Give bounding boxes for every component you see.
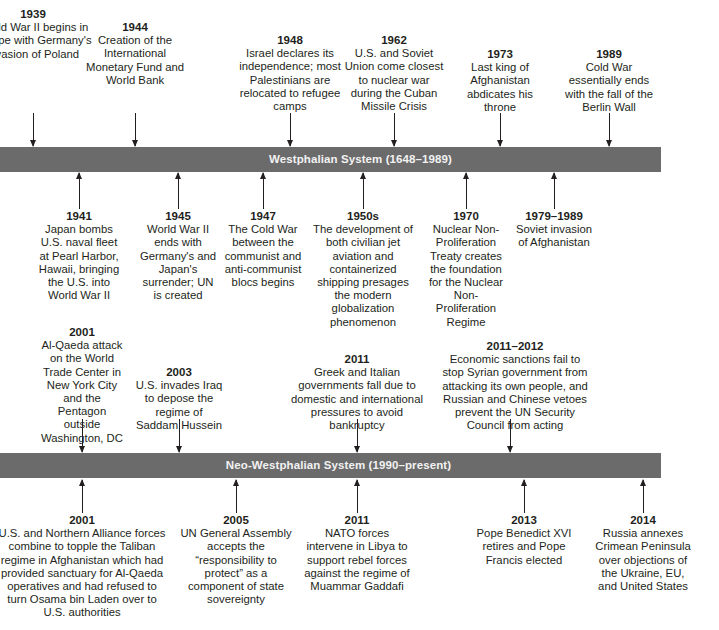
event-1950s: 1950s The development of both civilian j… bbox=[313, 210, 413, 329]
event-text: Soviet invasion of Afghanistan bbox=[516, 223, 592, 249]
event-text: The development of both civilian jet avi… bbox=[313, 223, 413, 329]
event-1948: 1948 Israel declares its independence; m… bbox=[236, 34, 344, 113]
event-1973: 1973 Last king of Afghanistan abdicates … bbox=[458, 48, 542, 114]
arrow-up-icon bbox=[263, 173, 264, 209]
event-1970: 1970 Nuclear Non-Proliferation Treaty cr… bbox=[424, 210, 508, 329]
event-year: 1962 bbox=[344, 34, 444, 47]
event-text: The Cold War between the communist and a… bbox=[224, 223, 302, 289]
westphalian-bar-label: Westphalian System (1648–1989) bbox=[269, 153, 452, 165]
event-year: 2011–2012 bbox=[439, 340, 591, 353]
event-text: Pope Benedict XVI retires and Pope Franc… bbox=[464, 527, 584, 567]
arrow-up-icon bbox=[524, 480, 525, 513]
event-text: Nuclear Non-Proliferation Treaty creates… bbox=[424, 223, 508, 329]
event-2011-libya: 2011 NATO forces intervene in Libya to s… bbox=[302, 514, 412, 593]
arrow-down-icon bbox=[394, 113, 395, 146]
westphalian-system-bar: Westphalian System (1648–1989) bbox=[0, 147, 661, 172]
arrow-up-icon bbox=[554, 173, 555, 209]
arrow-down-icon bbox=[510, 419, 511, 452]
arrow-down-icon bbox=[500, 113, 501, 146]
event-text: Israel declares its independence; most P… bbox=[236, 47, 344, 113]
event-text: Last king of Afghanistan abdicates his t… bbox=[458, 61, 542, 114]
event-year: 1941 bbox=[36, 210, 122, 223]
event-2013: 2013 Pope Benedict XVI retires and Pope … bbox=[464, 514, 584, 567]
event-2014: 2014 Russia annexes Crimean Peninsula ov… bbox=[593, 514, 693, 593]
arrow-down-icon bbox=[33, 113, 34, 146]
event-1944: 1944 Creation of the International Monet… bbox=[80, 21, 190, 87]
event-year: 1945 bbox=[138, 210, 218, 223]
event-1941: 1941 Japan bombs U.S. naval fleet at Pea… bbox=[36, 210, 122, 302]
arrow-down-icon bbox=[357, 419, 358, 452]
event-year: 2003 bbox=[134, 366, 224, 379]
event-year: 1948 bbox=[236, 34, 344, 47]
event-text: World War II ends with Germany's and Jap… bbox=[138, 223, 218, 302]
event-year: 1970 bbox=[424, 210, 508, 223]
event-year: 2013 bbox=[464, 514, 584, 527]
arrow-down-icon bbox=[135, 113, 136, 146]
event-year: 2011 bbox=[287, 353, 427, 366]
event-year: 1973 bbox=[458, 48, 542, 61]
event-text: Japan bombs U.S. naval fleet at Pearl Ha… bbox=[36, 223, 122, 302]
arrow-up-icon bbox=[466, 173, 467, 209]
event-year: 1989 bbox=[564, 48, 654, 61]
arrow-up-icon bbox=[643, 480, 644, 513]
arrow-up-icon bbox=[79, 173, 80, 209]
event-1947: 1947 The Cold War between the communist … bbox=[224, 210, 302, 289]
event-1945: 1945 World War II ends with Germany's an… bbox=[138, 210, 218, 302]
event-year: 2001 bbox=[0, 514, 168, 527]
arrow-down-icon bbox=[179, 419, 180, 452]
event-text: NATO forces intervene in Libya to suppor… bbox=[302, 527, 412, 593]
event-text: Cold War essentially ends with the fall … bbox=[564, 61, 654, 114]
event-year: 2011 bbox=[302, 514, 412, 527]
neo-westphalian-bar-label: Neo-Westphalian System (1990–present) bbox=[226, 459, 451, 471]
event-text: UN General Assembly accepts the “respons… bbox=[177, 527, 295, 606]
event-text: Economic sanctions fail to stop Syrian g… bbox=[439, 353, 591, 432]
arrow-down-icon bbox=[290, 113, 291, 146]
event-1962: 1962 U.S. and Soviet Union come closest … bbox=[344, 34, 444, 113]
event-text: Russia annexes Crimean Peninsula over ob… bbox=[593, 527, 693, 593]
event-year: 2014 bbox=[593, 514, 693, 527]
arrow-up-icon bbox=[357, 480, 358, 513]
arrow-down-icon bbox=[82, 419, 83, 452]
event-1979-1989: 1979–1989 Soviet invasion of Afghanistan bbox=[516, 210, 592, 250]
event-year: 1944 bbox=[80, 21, 190, 34]
event-year: 2001 bbox=[39, 326, 125, 339]
event-text: U.S. and Northern Alliance forces combin… bbox=[0, 527, 168, 619]
arrow-up-icon bbox=[363, 173, 364, 209]
arrow-down-icon bbox=[609, 113, 610, 146]
event-year: 1947 bbox=[224, 210, 302, 223]
arrow-up-icon bbox=[82, 480, 83, 513]
event-2005: 2005 UN General Assembly accepts the “re… bbox=[177, 514, 295, 606]
event-2001-afghanistan: 2001 U.S. and Northern Alliance forces c… bbox=[0, 514, 168, 620]
neo-westphalian-system-bar: Neo-Westphalian System (1990–present) bbox=[0, 453, 661, 478]
event-year: 1950s bbox=[313, 210, 413, 223]
event-2011-2012: 2011–2012 Economic sanctions fail to sto… bbox=[439, 340, 591, 432]
event-year: 1979–1989 bbox=[516, 210, 592, 223]
event-year: 1939 bbox=[0, 8, 93, 21]
event-text: Creation of the International Monetary F… bbox=[80, 34, 190, 87]
arrow-up-icon bbox=[236, 480, 237, 513]
event-year: 2005 bbox=[177, 514, 295, 527]
arrow-up-icon bbox=[178, 173, 179, 209]
event-1989: 1989 Cold War essentially ends with the … bbox=[564, 48, 654, 114]
event-text: U.S. and Soviet Union come closest to nu… bbox=[344, 47, 444, 113]
